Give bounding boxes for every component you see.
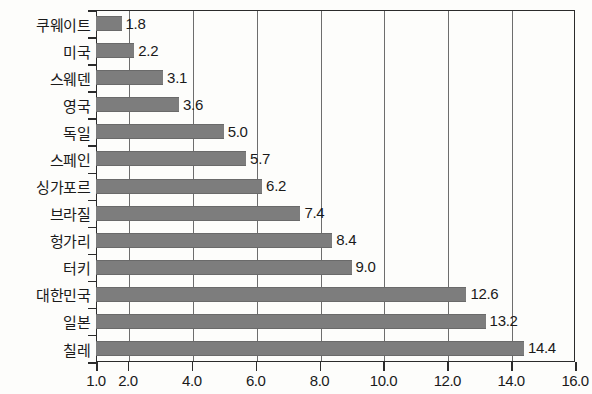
x-axis-tick-label: 8.0 — [310, 372, 329, 389]
bar — [96, 206, 300, 221]
x-axis-tick — [192, 362, 194, 371]
bar-value-label: 6.2 — [266, 177, 286, 194]
x-axis-tick — [128, 362, 130, 371]
bar-value-label: 5.7 — [250, 150, 270, 167]
bar — [96, 97, 179, 112]
x-axis-tick — [575, 362, 577, 371]
x-axis-tick-label: 12.0 — [434, 372, 461, 389]
bar-row: 14.4 — [96, 335, 575, 362]
x-axis-tick — [511, 362, 513, 371]
category-label: 독일 — [0, 122, 90, 143]
x-axis-tick-label: 2.0 — [118, 372, 137, 389]
category-label: 쿠웨이트 — [0, 14, 90, 35]
bar-row: 13.2 — [96, 308, 575, 335]
bar-value-label: 9.0 — [356, 258, 376, 275]
bar-row: 6.2 — [96, 173, 575, 200]
bar-value-label: 14.4 — [528, 340, 556, 357]
category-label: 칠레 — [0, 339, 90, 360]
x-axis-tick — [447, 362, 449, 371]
x-axis-tick — [96, 362, 98, 371]
bar-row: 3.1 — [96, 64, 575, 91]
bar — [96, 341, 524, 356]
bar-value-label: 3.1 — [167, 69, 187, 86]
bar — [96, 233, 332, 248]
x-axis-tick — [320, 362, 322, 371]
bar-row: 5.7 — [96, 145, 575, 172]
bar-value-label: 1.8 — [126, 15, 146, 32]
bar — [96, 151, 246, 166]
x-axis-tick-label: 1.0 — [86, 372, 105, 389]
category-label: 헝가리 — [0, 230, 90, 251]
bar — [96, 16, 122, 31]
category-label: 터키 — [0, 257, 90, 278]
category-label: 스웨덴 — [0, 68, 90, 89]
bar — [96, 43, 134, 58]
category-label: 싱가포르 — [0, 176, 90, 197]
bar-value-label: 8.4 — [336, 231, 356, 248]
x-axis-tick — [256, 362, 258, 371]
bar-row: 2.2 — [96, 37, 575, 64]
category-axis-labels: 쿠웨이트미국스웨덴영국독일스페인싱가포르브라질헝가리터키대한민국일본칠레 — [0, 10, 90, 362]
bar-row: 3.6 — [96, 91, 575, 118]
y-axis-tick — [88, 362, 96, 364]
bar — [96, 287, 466, 302]
x-axis-tick-label: 4.0 — [182, 372, 201, 389]
bar — [96, 260, 352, 275]
x-axis-tick-label: 6.0 — [246, 372, 265, 389]
category-label: 영국 — [0, 95, 90, 116]
category-label: 스페인 — [0, 149, 90, 170]
x-axis-tick-label: 10.0 — [370, 372, 397, 389]
bar-chart: 쿠웨이트미국스웨덴영국독일스페인싱가포르브라질헝가리터키대한민국일본칠레 1.8… — [0, 0, 592, 394]
bar-row: 5.0 — [96, 118, 575, 145]
bar-value-label: 7.4 — [304, 204, 324, 221]
x-axis-tick-label: 16.0 — [561, 372, 588, 389]
bar-value-label: 13.2 — [490, 313, 518, 330]
bar-row: 1.8 — [96, 10, 575, 37]
bar-row: 9.0 — [96, 254, 575, 281]
bar-row: 8.4 — [96, 227, 575, 254]
bar — [96, 314, 486, 329]
bar — [96, 70, 163, 85]
x-axis-tick-label: 14.0 — [497, 372, 524, 389]
category-label: 대한민국 — [0, 284, 90, 305]
category-label: 브라질 — [0, 203, 90, 224]
bar-value-label: 3.6 — [183, 96, 203, 113]
bar-row: 12.6 — [96, 281, 575, 308]
bar — [96, 179, 262, 194]
category-label: 일본 — [0, 311, 90, 332]
category-label: 미국 — [0, 41, 90, 62]
bar-value-label: 12.6 — [470, 286, 498, 303]
bars-layer: 1.82.23.13.65.05.76.27.48.49.012.613.214… — [96, 10, 575, 362]
bar-row: 7.4 — [96, 200, 575, 227]
x-axis-tick — [383, 362, 385, 371]
bar-value-label: 2.2 — [138, 42, 158, 59]
bar-value-label: 5.0 — [228, 123, 248, 140]
bar — [96, 124, 224, 139]
